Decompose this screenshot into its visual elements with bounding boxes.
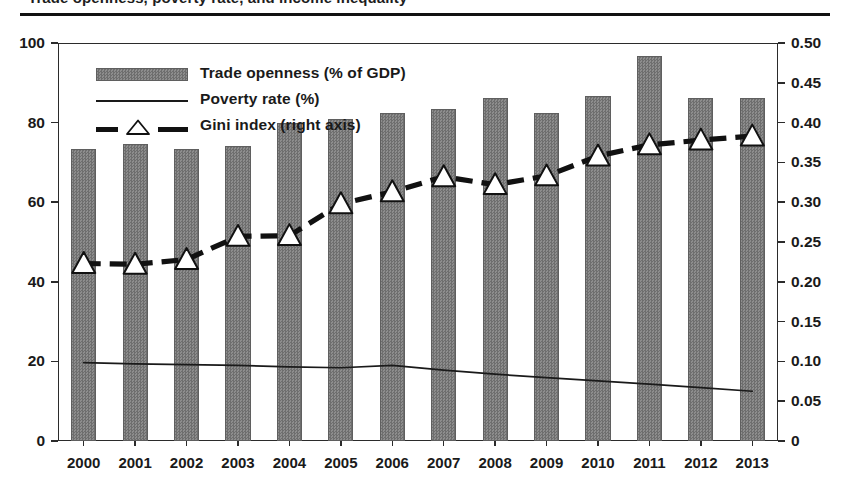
legend-label-gini-index: Gini index (right axis) — [200, 116, 361, 134]
legend-label-trade-openness: Trade openness (% of GDP) — [200, 64, 406, 82]
gini-swatch-icon — [96, 118, 192, 136]
gini-marker — [278, 224, 301, 245]
gini-marker — [329, 192, 352, 213]
gini-index-markers — [72, 125, 764, 274]
gini-marker — [381, 180, 404, 201]
legend-label-poverty-rate: Poverty rate (%) — [200, 90, 320, 108]
poverty-rate-line — [84, 363, 753, 392]
gini-marker — [638, 133, 661, 154]
gini-marker — [587, 145, 610, 166]
chart-figure: Trade openness, poverty rate, and income… — [0, 0, 850, 502]
gini-index-line — [84, 136, 753, 264]
bar-swatch-icon — [96, 68, 188, 81]
line-swatch-icon — [96, 100, 188, 102]
gini-marker — [432, 165, 455, 186]
